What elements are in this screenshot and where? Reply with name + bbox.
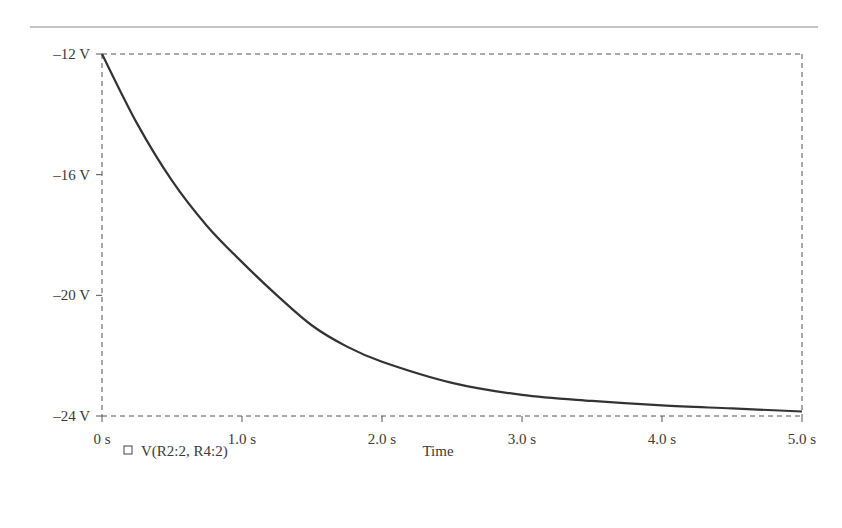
x-axis-title: Time <box>422 443 453 459</box>
x-tick-label: 5.0 s <box>788 431 817 447</box>
x-tick-label: 0 s <box>93 431 110 447</box>
y-tick-label: –24 V <box>52 408 90 424</box>
y-tick-label: –16 V <box>52 167 90 183</box>
x-tick-label: 1.0 s <box>228 431 257 447</box>
x-tick-label: 2.0 s <box>368 431 397 447</box>
y-axis-ticks: –12 V–16 V–20 V–24 V <box>52 46 102 424</box>
legend-series-label: V(R2:2, R4:2) <box>141 443 228 460</box>
legend: V(R2:2, R4:2) <box>124 443 228 460</box>
y-tick-label: –20 V <box>52 287 90 303</box>
x-tick-label: 4.0 s <box>648 431 677 447</box>
legend-marker-icon <box>124 446 132 454</box>
plot-frame <box>102 54 802 416</box>
y-tick-label: –12 V <box>52 46 90 62</box>
voltage-time-chart: –12 V–16 V–20 V–24 V 0 s1.0 s2.0 s3.0 s4… <box>0 0 842 528</box>
x-tick-label: 3.0 s <box>508 431 537 447</box>
series-line-v-r2-r4 <box>102 54 802 411</box>
